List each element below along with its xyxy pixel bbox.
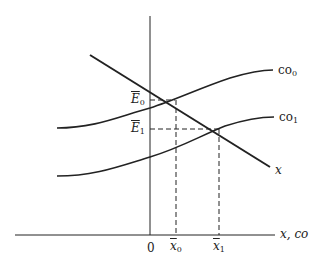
co0-curve	[57, 70, 273, 128]
x1-label: x1	[213, 240, 225, 254]
equilibrium-diagram: co0 co1 x E0 E1 0 x0 x1 x, co	[0, 0, 319, 263]
horizontal-axis-label: x, co	[280, 228, 308, 240]
co1-label: co1	[279, 111, 298, 125]
co0-label: co0	[278, 64, 297, 78]
origin-label: 0	[147, 242, 155, 254]
diagram-graphics	[0, 0, 319, 263]
e1-label: E1	[131, 122, 145, 136]
x-line	[90, 55, 270, 167]
co1-curve	[57, 117, 274, 176]
x-line-label: x	[275, 164, 282, 176]
x0-label: x0	[170, 240, 182, 254]
e0-label: E0	[131, 93, 145, 107]
